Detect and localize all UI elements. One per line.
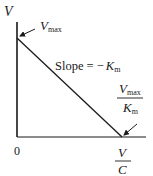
eadie-hofstee-diagram: V Vmax Slope = −Km Vmax Km 0 V C [0, 0, 153, 176]
slope-label: Slope = −Km [55, 59, 121, 74]
regression-line [17, 38, 122, 137]
y-intercept-label: Vmax [40, 18, 62, 34]
x-axis-label-numerator: V [118, 145, 128, 160]
y-axis-label: V [4, 4, 14, 19]
vmax-arrow [20, 29, 35, 36]
origin-label: 0 [14, 144, 20, 158]
x-intercept-denominator: Km [122, 100, 139, 116]
slope-sub: m [114, 65, 121, 74]
x-intercept-den-sub: m [132, 107, 139, 116]
x-intercept-arrow [124, 124, 137, 135]
x-intercept-numerator: Vmax [119, 81, 141, 97]
y-intercept-sub: max [48, 25, 62, 34]
x-intercept-num-sub: max [127, 88, 141, 97]
x-axis-label-denominator: C [118, 162, 127, 176]
slope-prefix: Slope = − [55, 59, 104, 73]
